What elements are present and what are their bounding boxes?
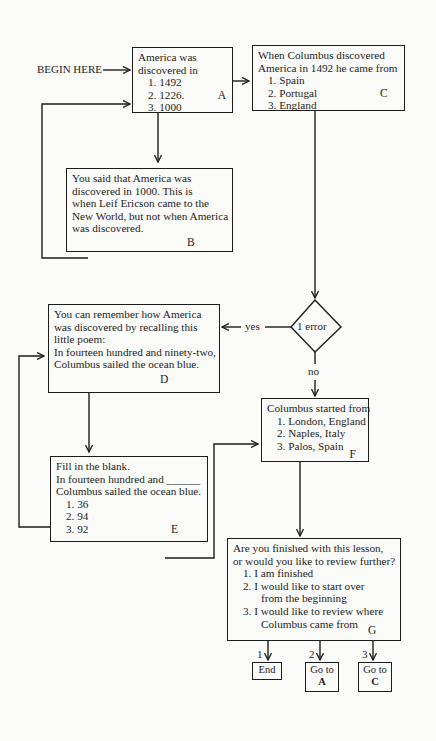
frame-b-text: was discovered. [72, 222, 227, 235]
frame-a-text: discovered in [138, 64, 227, 77]
frame-e-id: E [171, 523, 178, 536]
exit-goto-c-box[interactable]: Go to C [358, 662, 392, 692]
frame-a-id: A [218, 89, 226, 102]
exit-goto-a-target: A [306, 676, 338, 688]
exit-end-label: End [259, 664, 276, 675]
frame-e-text: In fourteen hundred and ______ [56, 473, 202, 486]
frame-a-option-2[interactable]: 2. 1226. [138, 89, 227, 102]
frame-f: Columbus started from 1. London, England… [261, 398, 369, 462]
frame-c-option-1[interactable]: 1. Spain [258, 74, 399, 87]
frame-e: Fill in the blank. In fourteen hundred a… [50, 456, 208, 542]
frame-b-text: discovered in 1000. This is [72, 185, 227, 198]
frame-d-text: little poem: [54, 333, 214, 346]
exit-goto-a-box[interactable]: Go to A [305, 662, 339, 692]
frame-a-option-3[interactable]: 3. 1000 [138, 101, 227, 114]
frame-e-option-2[interactable]: 2. 94 [56, 510, 202, 523]
frame-e-text: Fill in the blank. [56, 460, 202, 473]
frame-g-id: G [368, 624, 376, 637]
frame-d-text: You can remember how America [54, 308, 214, 321]
frame-b-id: B [187, 236, 195, 249]
frame-f-text: Columbus started from [267, 402, 363, 415]
frame-c-id: C [380, 87, 388, 100]
frame-d-text: was discovered by recalling this [54, 321, 214, 334]
decision-yes-label: yes [245, 320, 260, 332]
frame-g-option-2-cont[interactable]: from the beginning [233, 592, 395, 605]
begin-here-label: BEGIN HERE [37, 63, 102, 75]
frame-a-text: America was [138, 51, 227, 64]
exit-1-number: 1 [257, 648, 263, 660]
frame-f-option-3[interactable]: 3. Palos, Spain [267, 440, 363, 453]
frame-e-option-1[interactable]: 1. 36 [56, 498, 202, 511]
frame-c-option-2[interactable]: 2. Portugal [258, 87, 399, 100]
decision-no-label: no [308, 365, 319, 377]
frame-c: When Columbus discovered America in 1492… [252, 45, 405, 111]
frame-f-option-1[interactable]: 1. London, England [267, 415, 363, 428]
exit-2-number: 2 [309, 648, 315, 660]
frame-c-text: America in 1492 he came from [258, 62, 399, 75]
frame-b-text: New World, but not when America [72, 210, 227, 223]
exit-3-number: 3 [362, 648, 368, 660]
frame-f-option-2[interactable]: 2. Naples, Italy [267, 427, 363, 440]
frame-g-option-2[interactable]: 2. I would like to start over [233, 580, 395, 593]
frame-d-id: D [160, 373, 168, 386]
frame-f-id: F [350, 448, 356, 461]
frame-b: You said that America was discovered in … [66, 168, 233, 252]
frame-a-option-1[interactable]: 1. 1492 [138, 76, 227, 89]
frame-e-text: Columbus sailed the ocean blue. [56, 485, 202, 498]
exit-goto-c-label: Go to [359, 664, 391, 676]
frame-b-text: when Leif Ericson came to the [72, 197, 227, 210]
frame-g-option-3[interactable]: 3. I would like to review where [233, 605, 395, 618]
decision-text: 1 error [297, 320, 327, 332]
frame-g-text: or would you like to review further? [233, 555, 395, 568]
frame-a: America was discovered in 1. 1492 2. 122… [132, 47, 233, 113]
frame-g-text: Are you finished with this lesson, [233, 542, 395, 555]
frame-b-text: You said that America was [72, 172, 227, 185]
frame-c-text: When Columbus discovered [258, 49, 399, 62]
frame-g-option-1[interactable]: 1. I am finished [233, 567, 395, 580]
frame-d-text: Columbus sailed the ocean blue. [54, 358, 214, 371]
frame-g: Are you finished with this lesson, or wo… [227, 538, 401, 641]
frame-e-option-3[interactable]: 3. 92 [56, 523, 202, 536]
exit-end-box[interactable]: End [252, 662, 282, 680]
exit-goto-a-label: Go to [306, 664, 338, 676]
frame-d: You can remember how America was discove… [48, 304, 220, 393]
exit-goto-c-target: C [359, 676, 391, 688]
frame-d-text: In fourteen hundred and ninety-two, [54, 346, 214, 359]
frame-c-option-3[interactable]: 3. England [258, 99, 399, 112]
